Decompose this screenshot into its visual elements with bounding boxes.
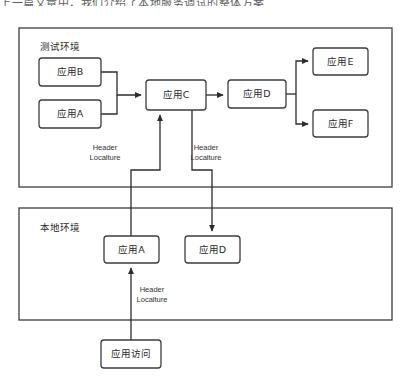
header-label-1-line2: Localture — [90, 153, 121, 162]
container-label-test-env: 测试环境 — [40, 41, 80, 52]
edge-c-to-localD — [192, 110, 212, 231]
clipped-top-caption: 上一篇文章中，我们介绍了本地服务调试的整体方案 — [0, 0, 407, 6]
node-label-app-b: 应用B — [57, 66, 84, 77]
edge-d-to-f — [296, 94, 308, 124]
edge-label-header-label-1: HeaderLocalture — [90, 143, 121, 162]
edge-localA-to-c — [131, 115, 160, 236]
node-app-c: 应用C — [146, 80, 206, 110]
edge-a-to-c — [101, 95, 117, 114]
container-local-env: 本地环境 — [19, 208, 392, 320]
node-label-app-d-local: 应用D — [199, 244, 226, 255]
container-label-local-env: 本地环境 — [40, 222, 80, 233]
diagram-root: 上一篇文章中，我们介绍了本地服务调试的整体方案 测试环境本地环境 应用B应用A应… — [0, 0, 407, 386]
node-label-app-d-test: 应用D — [243, 88, 270, 99]
node-label-app-access: 应用访问 — [111, 348, 151, 359]
node-app-access: 应用访问 — [101, 340, 161, 368]
node-label-app-c: 应用C — [163, 89, 190, 100]
header-label-3-line2: Localture — [137, 295, 168, 304]
node-app-d-local: 应用D — [185, 236, 240, 263]
header-label-1-line1: Header — [93, 143, 118, 152]
connector-labels: HeaderLocaltureHeaderLocaltureHeaderLoca… — [90, 143, 222, 304]
architecture-diagram: 测试环境本地环境 应用B应用A应用C应用D应用E应用F应用A应用D应用访问 He… — [0, 0, 407, 386]
edge-b-to-c — [101, 72, 141, 95]
node-app-e: 应用E — [313, 48, 368, 75]
node-label-app-a-test: 应用A — [57, 108, 84, 119]
node-app-b: 应用B — [39, 58, 101, 86]
edge-label-header-label-2: HeaderLocalture — [191, 143, 222, 162]
edge-d-to-e — [296, 61, 308, 94]
node-label-app-a-local: 应用A — [118, 244, 145, 255]
header-label-2-line2: Localture — [191, 153, 222, 162]
header-label-3-line1: Header — [140, 285, 165, 294]
node-app-d-test: 应用D — [228, 80, 286, 108]
node-label-app-f: 应用F — [328, 118, 353, 129]
node-app-a-local: 应用A — [104, 236, 159, 263]
node-label-app-e: 应用E — [327, 56, 353, 67]
edge-label-header-label-3: HeaderLocalture — [137, 285, 168, 304]
node-app-f: 应用F — [313, 110, 368, 137]
header-label-2-line1: Header — [194, 143, 219, 152]
node-app-a-test: 应用A — [39, 100, 101, 128]
